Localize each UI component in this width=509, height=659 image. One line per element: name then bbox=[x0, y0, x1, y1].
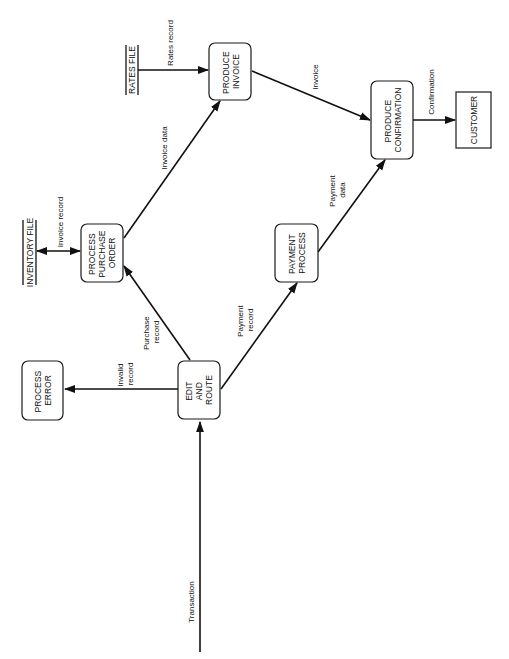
flow-label-confirmation: Confirmation bbox=[427, 69, 436, 114]
flow-payment-record-arrow bbox=[221, 283, 297, 389]
flow-purchase-record-arrow bbox=[124, 266, 190, 360]
process-error: PROCESS ERROR bbox=[22, 361, 63, 420]
process-produce-invoice: PRODUCE INVOICE bbox=[209, 43, 251, 100]
edit-and-route-line: AND bbox=[194, 382, 204, 400]
rates-file-label: RATES FILE bbox=[127, 46, 137, 94]
flow-label-transaction: Transaction bbox=[187, 581, 196, 623]
customer-label: CUSTOMER bbox=[469, 96, 479, 145]
flow-label-rates-record: Rates record bbox=[166, 20, 175, 66]
process-purchase-order-line: ORDER bbox=[107, 238, 117, 269]
process-payment: PAYMENT PROCESS bbox=[275, 224, 318, 282]
flow-label-invoice-data: Invoice data bbox=[160, 126, 169, 170]
svg-text:PAYMENT PROCESS: PAYMENT PROCESS bbox=[287, 232, 307, 274]
process-produce-confirmation: PRODUCE CONFIRMATION bbox=[371, 81, 413, 159]
flow-invoice-data-arrow bbox=[124, 101, 220, 238]
process-purchase-order-line: PURCHASE bbox=[97, 230, 107, 278]
flow-label-payment-record: Payment record bbox=[236, 303, 255, 337]
process-purchase-order: PROCESS PURCHASE ORDER bbox=[81, 224, 123, 282]
external-entity-customer: CUSTOMER bbox=[456, 92, 491, 148]
edit-and-route-line: EDIT bbox=[184, 382, 194, 401]
process-error-line: PROCESS bbox=[33, 371, 43, 413]
data-flow-diagram: INVENTORY FILE RATES FILE PROCESS ERROR … bbox=[0, 0, 509, 659]
data-store-inventory-file: INVENTORY FILE bbox=[23, 217, 36, 287]
flow-label-invalid-record: Invalid record bbox=[116, 361, 135, 386]
flow-label-purchase-record: Purchase record bbox=[142, 314, 161, 350]
produce-invoice-line: INVOICE bbox=[231, 54, 241, 89]
payment-process-line: PROCESS bbox=[297, 232, 307, 274]
process-error-line: ERROR bbox=[43, 375, 53, 406]
flow-label-invoice-record: Invoice record bbox=[56, 197, 65, 247]
data-store-rates-file: RATES FILE bbox=[126, 45, 138, 95]
edit-and-route-line: ROUTE bbox=[204, 375, 214, 405]
process-purchase-order-line: PROCESS bbox=[87, 233, 97, 275]
produce-confirmation-line: PRODUCE bbox=[383, 100, 393, 143]
produce-invoice-line: PRODUCE bbox=[221, 51, 231, 94]
svg-text:PRODUCE INVOICE: PRODUCE INVOICE bbox=[221, 49, 241, 94]
process-edit-and-route: EDIT AND ROUTE bbox=[178, 361, 220, 419]
flow-label-invoice: Invoice bbox=[311, 64, 320, 90]
inventory-file-label: INVENTORY FILE bbox=[25, 217, 35, 287]
produce-confirmation-line: CONFIRMATION bbox=[393, 87, 403, 152]
flow-label-payment-data: Payment data bbox=[328, 173, 347, 207]
payment-process-line: PAYMENT bbox=[287, 234, 297, 274]
